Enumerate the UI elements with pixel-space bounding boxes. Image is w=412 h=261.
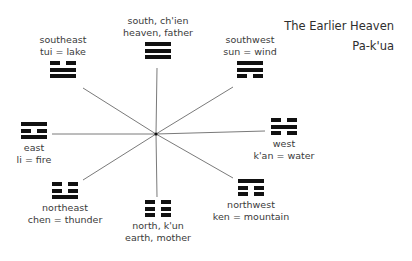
label-north: north, k'un earth, mother	[118, 220, 198, 244]
node-northeast: northeast chen = thunder	[25, 179, 105, 226]
yang-line	[271, 125, 297, 129]
node-west: west k'an = water	[248, 115, 320, 162]
yang-line	[145, 55, 171, 59]
spoke-northwest	[156, 134, 233, 178]
label-line2: chen = thunder	[25, 214, 105, 226]
label-line1: east	[4, 142, 64, 154]
spoke-southeast	[83, 88, 156, 134]
label-south: south, ch'ien heaven, father	[118, 15, 198, 39]
yang-line	[21, 122, 47, 126]
label-line2: ken = mountain	[211, 211, 291, 223]
label-line2: sun = wind	[215, 46, 285, 58]
spoke-northeast	[83, 134, 156, 180]
yang-line	[50, 68, 76, 72]
node-southwest: southwest sun = wind	[215, 34, 285, 81]
label-line1: northeast	[25, 202, 105, 214]
yin-line	[52, 182, 78, 186]
trigram-lake	[50, 61, 76, 78]
yang-line	[145, 42, 171, 46]
label-line2: li = fire	[4, 154, 64, 166]
trigram-water	[271, 118, 297, 135]
label-line2: k'an = water	[248, 150, 320, 162]
center-point	[154, 132, 157, 135]
label-line1: southeast	[28, 34, 98, 46]
yin-line	[238, 192, 264, 196]
yin-line	[52, 189, 78, 193]
node-east: east li = fire	[4, 119, 64, 166]
label-west: west k'an = water	[248, 138, 320, 162]
yin-line	[145, 200, 171, 204]
yin-line	[271, 118, 297, 122]
label-east: east li = fire	[4, 142, 64, 166]
yin-line	[271, 131, 297, 135]
label-line1: north, k'un	[118, 220, 198, 232]
label-line2: tui = lake	[28, 46, 98, 58]
node-north: north, k'un earth, mother	[118, 197, 198, 244]
trigram-earth	[145, 200, 171, 217]
trigram-heaven	[145, 42, 171, 59]
title-line1: The Earlier Heaven	[284, 16, 394, 36]
trigram-mountain	[238, 179, 264, 196]
label-line1: southwest	[215, 34, 285, 46]
title-line2: Pa-k'ua	[284, 36, 394, 56]
label-line1: west	[248, 138, 320, 150]
node-northwest: northwest ken = mountain	[211, 176, 291, 223]
yin-line	[145, 207, 171, 211]
label-line2: heaven, father	[118, 27, 198, 39]
yang-line	[21, 135, 47, 139]
trigram-thunder	[52, 182, 78, 199]
label-line2: earth, mother	[118, 232, 198, 244]
label-northeast: northeast chen = thunder	[25, 202, 105, 226]
yin-line	[237, 74, 263, 78]
label-northwest: northwest ken = mountain	[211, 199, 291, 223]
yin-line	[21, 129, 47, 133]
spoke-southwest	[156, 87, 233, 134]
trigram-wind	[237, 61, 263, 78]
label-southwest: southwest sun = wind	[215, 34, 285, 58]
yin-line	[238, 186, 264, 190]
yang-line	[145, 49, 171, 53]
yang-line	[238, 179, 264, 183]
label-line1: northwest	[211, 199, 291, 211]
yin-line	[50, 61, 76, 65]
trigram-fire	[21, 122, 47, 139]
spoke-south	[156, 68, 157, 134]
yang-line	[50, 74, 76, 78]
label-southeast: southeast tui = lake	[28, 34, 98, 58]
node-southeast: southeast tui = lake	[28, 34, 98, 81]
yang-line	[52, 195, 78, 199]
yang-line	[237, 68, 263, 72]
spoke-north	[156, 134, 157, 197]
diagram-title: The Earlier Heaven Pa-k'ua	[284, 16, 394, 56]
yin-line	[145, 213, 171, 217]
yang-line	[237, 61, 263, 65]
node-south: south, ch'ien heaven, father	[118, 15, 198, 62]
label-line1: south, ch'ien	[118, 15, 198, 27]
